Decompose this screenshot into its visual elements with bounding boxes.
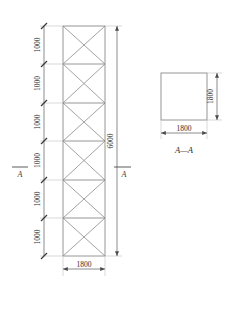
overall-height-label: 6000 [106,133,115,148]
section-width-label: 1800 [177,124,192,133]
panel-dimension-2: 1000 [33,76,42,91]
section-caption: A—A [174,145,194,155]
tower-width-label: 1800 [77,260,92,269]
technical-drawing: 1000 1000 1000 1000 1000 1000 6000 A A 1… [0,0,240,318]
section-square [161,73,207,120]
drawing-canvas: 1000 1000 1000 1000 1000 1000 6000 A A 1… [0,0,240,318]
panel-dimension-6: 1000 [33,229,42,244]
section-mark-left-label: A [17,170,23,179]
panel-dimension-1: 1000 [33,37,42,52]
panel-dimension-5: 1000 [33,191,42,206]
section-height-label: 1800 [206,89,215,104]
panel-dimension-3: 1000 [33,114,42,129]
panel-dimension-4: 1000 [33,153,42,168]
tower-frame [63,26,105,256]
section-mark-right-label: A [121,170,127,179]
panel-dimension-chain [40,23,63,259]
